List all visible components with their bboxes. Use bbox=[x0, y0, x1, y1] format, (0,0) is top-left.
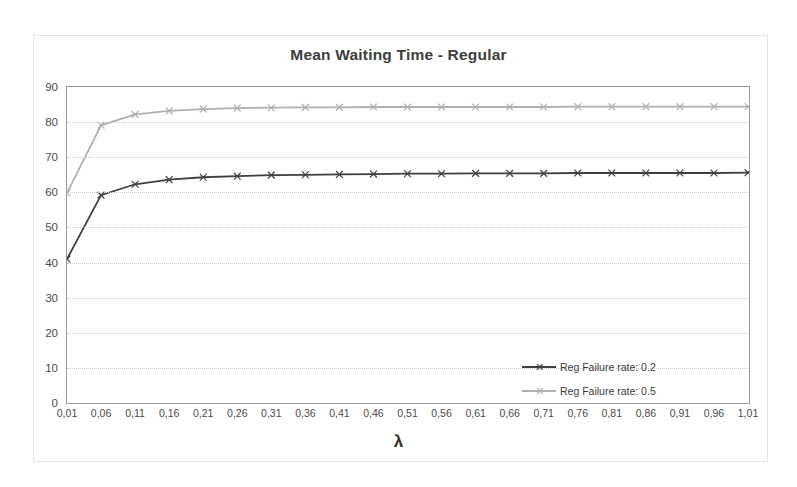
plot-area: ✕ Reg Failure rate: 0.2 ✕ Reg Failure ra… bbox=[66, 86, 750, 404]
y-axis-tick: 50 bbox=[18, 221, 58, 233]
x-axis-tick: 0,51 bbox=[397, 407, 417, 419]
x-axis-tick: 0,21 bbox=[193, 407, 213, 419]
y-axis-tick: 80 bbox=[18, 116, 58, 128]
series-line-0 bbox=[67, 173, 748, 259]
y-axis-tick: 40 bbox=[18, 257, 58, 269]
y-axis-tick: 70 bbox=[18, 151, 58, 163]
x-axis-tick: 0,26 bbox=[227, 407, 247, 419]
x-axis-tick: 0,11 bbox=[125, 407, 145, 419]
x-axis-tick: 0,36 bbox=[295, 407, 315, 419]
x-axis-tick: 0,71 bbox=[533, 407, 553, 419]
legend-line-icon-1: ✕ bbox=[522, 386, 556, 396]
x-axis-tick: 0,46 bbox=[363, 407, 383, 419]
x-axis-tick: 0,01 bbox=[57, 407, 77, 419]
x-axis-tick: 0,06 bbox=[91, 407, 111, 419]
gridline bbox=[67, 192, 749, 193]
legend-item-0[interactable]: ✕ Reg Failure rate: 0.2 bbox=[522, 355, 712, 379]
y-axis-tick: 10 bbox=[18, 362, 58, 374]
gridline bbox=[67, 298, 749, 299]
gridline bbox=[67, 122, 749, 123]
y-axis-tick-labels: 0102030405060708090 bbox=[18, 86, 58, 404]
x-axis-tick: 0,41 bbox=[329, 407, 349, 419]
y-axis-tick: 30 bbox=[18, 292, 58, 304]
chart-screenshot: Mean Waiting Time - Regular 010203040506… bbox=[0, 0, 797, 487]
x-axis-tick: 0,76 bbox=[568, 407, 588, 419]
x-axis-tick: 0,96 bbox=[704, 407, 724, 419]
x-axis-title: λ bbox=[0, 432, 797, 452]
legend-label-1: Reg Failure rate: 0.5 bbox=[560, 385, 656, 397]
x-axis-tick: 0,61 bbox=[465, 407, 485, 419]
legend-item-1[interactable]: ✕ Reg Failure rate: 0.5 bbox=[522, 379, 712, 403]
x-axis-tick: 0,31 bbox=[261, 407, 281, 419]
x-axis-tick: 0,66 bbox=[499, 407, 519, 419]
y-axis-tick: 60 bbox=[18, 186, 58, 198]
legend-label-0: Reg Failure rate: 0.2 bbox=[560, 361, 656, 373]
y-axis-tick: 90 bbox=[18, 81, 58, 93]
x-axis-tick: 0,56 bbox=[431, 407, 451, 419]
x-axis-tick: 0,16 bbox=[159, 407, 179, 419]
y-axis-tick: 0 bbox=[18, 397, 58, 409]
gridline bbox=[67, 227, 749, 228]
gridline bbox=[67, 157, 749, 158]
x-axis-tick: 0,81 bbox=[602, 407, 622, 419]
chart-title: Mean Waiting Time - Regular bbox=[0, 46, 797, 64]
gridline bbox=[67, 263, 749, 264]
legend-line-icon-0: ✕ bbox=[522, 362, 556, 372]
x-axis-tick: 0,86 bbox=[636, 407, 656, 419]
y-axis-tick: 20 bbox=[18, 327, 58, 339]
x-axis-tick: 0,91 bbox=[670, 407, 690, 419]
x-axis-tick-labels: 0,010,060,110,160,210,260,310,360,410,46… bbox=[66, 407, 750, 425]
chart-legend: ✕ Reg Failure rate: 0.2 ✕ Reg Failure ra… bbox=[522, 355, 712, 403]
x-axis-tick: 1,01 bbox=[738, 407, 758, 419]
gridline bbox=[67, 333, 749, 334]
